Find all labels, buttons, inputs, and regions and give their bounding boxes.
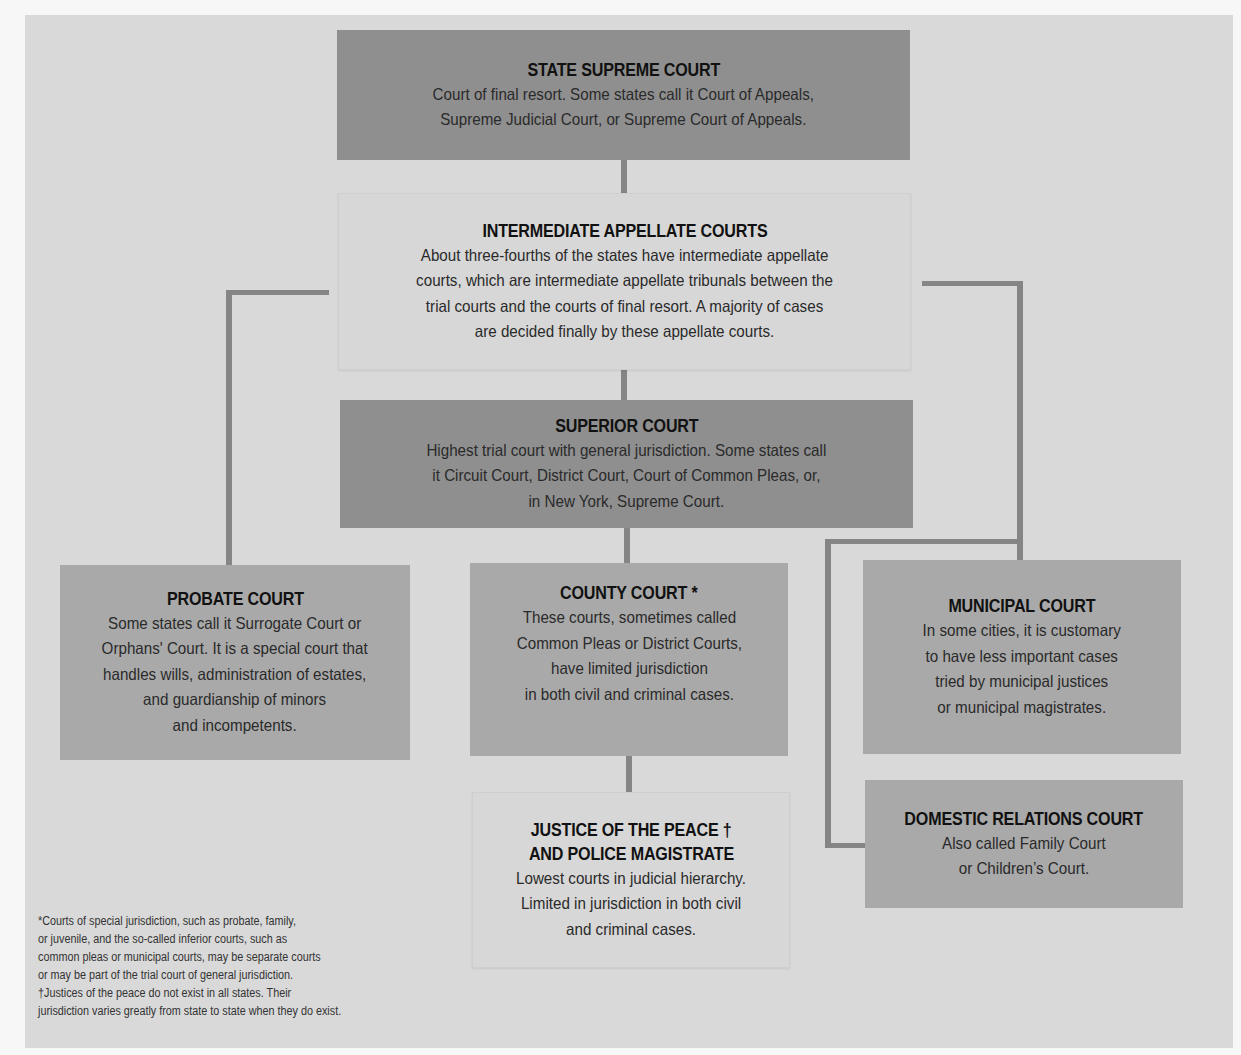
node-county-court: COUNTY COURT * These courts, sometimes c… <box>470 563 788 756</box>
node-title: PROBATE COURT <box>167 587 304 611</box>
node-description: Highest trial court with general jurisdi… <box>427 438 827 515</box>
node-domestic-relations-court: DOMESTIC RELATIONS COURT Also called Fam… <box>865 780 1183 908</box>
node-description: Lowest courts in judicial hierarchy. Lim… <box>516 866 746 943</box>
node-title: SUPERIOR COURT <box>555 414 698 438</box>
node-title: COUNTY COURT * <box>560 581 698 605</box>
connector-domestic-h-bottom <box>825 843 865 848</box>
node-intermediate-appellate-courts: INTERMEDIATE APPELLATE COURTS About thre… <box>338 193 911 370</box>
node-description: Court of final resort. Some states call … <box>433 82 814 133</box>
node-title-line2: AND POLICE MAGISTRATE <box>528 842 733 866</box>
connector-appellate-probate-h <box>226 290 329 295</box>
connector-appellate-municipal-h <box>922 281 1023 286</box>
node-description: Some states call it Surrogate Court or O… <box>102 611 368 739</box>
node-title-line1: JUSTICE OF THE PEACE † <box>531 818 732 842</box>
node-description: In some cities, it is customary to have … <box>923 618 1121 720</box>
connector-county-justice <box>626 756 632 792</box>
connector-domestic-v <box>825 539 831 847</box>
node-description: These courts, sometimes called Common Pl… <box>516 605 741 707</box>
connector-domestic-h-top <box>825 539 1023 544</box>
node-description: Also called Family Court or Children’s C… <box>942 831 1106 882</box>
node-description: About three-fourths of the states have i… <box>416 243 833 345</box>
connector-superior-county <box>624 528 630 563</box>
node-title: DOMESTIC RELATIONS COURT <box>905 807 1144 831</box>
node-superior-court: SUPERIOR COURT Highest trial court with … <box>340 400 913 528</box>
node-title: MUNICIPAL COURT <box>949 594 1096 618</box>
connector-appellate-superior <box>621 370 627 400</box>
connector-supreme-appellate <box>621 160 627 193</box>
node-state-supreme-court: STATE SUPREME COURT Court of final resor… <box>337 30 910 160</box>
connector-appellate-municipal-v <box>1017 281 1023 560</box>
footnote: *Courts of special jurisdiction, such as… <box>38 912 398 1020</box>
node-justice-of-the-peace: JUSTICE OF THE PEACE † AND POLICE MAGIST… <box>472 792 790 968</box>
node-municipal-court: MUNICIPAL COURT In some cities, it is cu… <box>863 560 1181 754</box>
node-probate-court: PROBATE COURT Some states call it Surrog… <box>60 565 410 760</box>
node-title: STATE SUPREME COURT <box>527 58 720 82</box>
node-title: INTERMEDIATE APPELLATE COURTS <box>482 219 767 243</box>
connector-appellate-probate-v <box>226 290 232 565</box>
